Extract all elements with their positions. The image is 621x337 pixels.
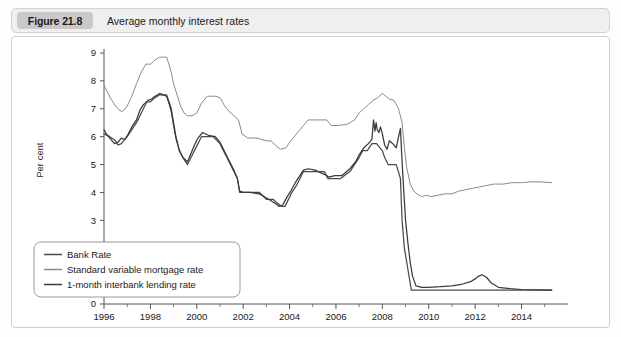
line-chart: 0123456789199619982000200220042006200820… [12, 37, 610, 328]
y-tick-label: 9 [91, 47, 96, 58]
x-tick-label: 2014 [511, 311, 532, 322]
x-tick-label: 2006 [325, 311, 346, 322]
y-tick-label: 5 [91, 159, 96, 170]
x-tick-label: 1998 [140, 311, 161, 322]
x-tick-label: 2000 [186, 311, 207, 322]
y-tick-label: 3 [91, 215, 96, 226]
chart-frame: Per cent 0123456789199619982000200220042… [11, 36, 610, 328]
legend-label: 1-month interbank lending rate [67, 279, 196, 290]
x-tick-label: 2002 [233, 311, 254, 322]
y-tick-label: 0 [91, 298, 96, 309]
x-tick-label: 2010 [418, 311, 439, 322]
figure-title: Average monthly interest rates [107, 15, 249, 27]
figure-screenshot: Figure 21.8 Average monthly interest rat… [0, 0, 621, 337]
x-tick-label: 1996 [93, 311, 114, 322]
figure-caption-bar: Figure 21.8 Average monthly interest rat… [11, 8, 610, 33]
y-tick-label: 8 [91, 75, 96, 86]
y-tick-label: 4 [91, 187, 96, 198]
x-tick-label: 2008 [372, 311, 393, 322]
legend-label: Bank Rate [67, 249, 111, 260]
legend-label: Standard variable mortgage rate [67, 264, 203, 275]
x-tick-label: 2004 [279, 311, 300, 322]
x-tick-label: 2012 [465, 311, 486, 322]
y-tick-label: 7 [91, 103, 96, 114]
y-tick-label: 6 [91, 131, 96, 142]
figure-number-badge: Figure 21.8 [17, 12, 93, 29]
